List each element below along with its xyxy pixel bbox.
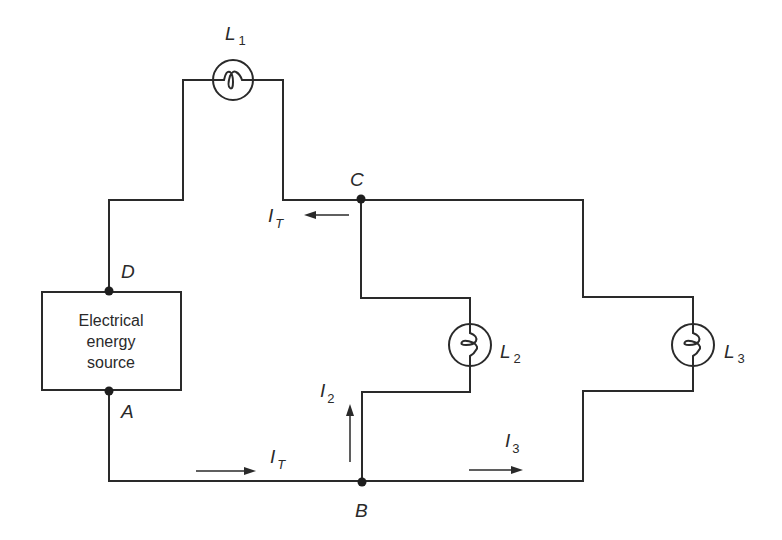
lamp-l1-icon: [213, 60, 253, 100]
current-label-i2: I2: [320, 380, 335, 406]
current-label-it-bottom: IT: [270, 446, 286, 472]
wire-bottom: [109, 390, 362, 481]
node-label-a: A: [120, 401, 134, 422]
wire-top-path: [109, 80, 693, 324]
current-arrow-it-bottom: [196, 467, 256, 475]
source-label-line2: energy: [87, 333, 136, 350]
lamp-label-l3: L3: [724, 341, 745, 366]
node-c: [357, 195, 366, 204]
circuit-diagram: Electrical energy source D A C B L1 L2 L…: [0, 0, 782, 540]
lamp-label-l1: L1: [225, 23, 246, 48]
node-label-b: B: [355, 500, 368, 521]
node-label-c: C: [350, 169, 364, 190]
lamp-label-l2: L2: [500, 341, 521, 366]
current-arrow-i2: [346, 404, 354, 462]
current-arrow-i3: [469, 466, 523, 474]
current-label-i3: I3: [505, 430, 520, 456]
current-label-it-top: IT: [268, 205, 284, 231]
node-label-d: D: [121, 261, 135, 282]
node-d: [105, 287, 114, 296]
current-arrow-it-top: [304, 211, 349, 219]
node-b: [358, 478, 367, 487]
node-a: [105, 387, 114, 396]
source-label-line3: source: [87, 354, 135, 371]
source-label-line1: Electrical: [79, 312, 144, 329]
wire-l2-top: [361, 200, 470, 324]
wire-l2-bottom: [362, 366, 470, 481]
lamp-l3-icon: [672, 324, 714, 366]
lamp-l2-icon: [449, 324, 491, 366]
wire-l3-return: [362, 366, 693, 481]
